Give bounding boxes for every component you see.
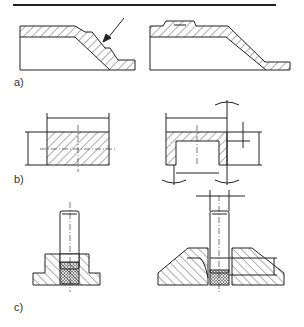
panel-c-left [33, 202, 100, 292]
label-a: a) [14, 76, 24, 88]
panel-a-right [150, 21, 290, 70]
arrow-line [108, 18, 124, 38]
label-b: b) [14, 173, 24, 185]
panel-a-left [20, 18, 135, 70]
label-c: c) [14, 301, 23, 313]
panel-b-right [162, 100, 262, 185]
panel-b-left [25, 113, 115, 172]
technical-drawing [0, 0, 304, 327]
panel-c-right [158, 190, 284, 292]
